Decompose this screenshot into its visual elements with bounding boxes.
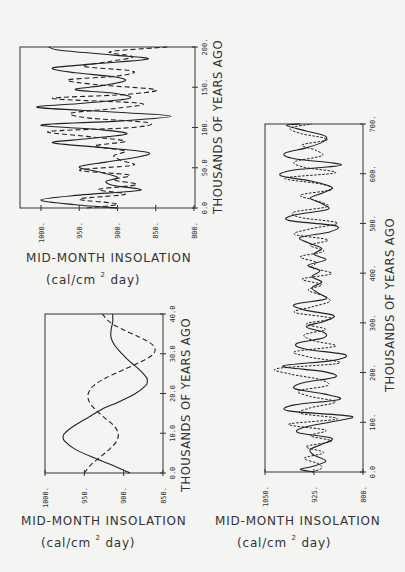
series-solid-line xyxy=(280,124,353,472)
time-tick-label: 500. xyxy=(369,215,377,232)
unit-text-end: day) xyxy=(297,536,332,550)
time-tick-label: 700. xyxy=(369,116,377,133)
time-tick-label: 0.0 xyxy=(369,466,377,479)
value-tick-label: 925. xyxy=(311,486,319,503)
time-tick-label: 300. xyxy=(369,314,377,331)
value-tick-label: 800. xyxy=(360,486,368,503)
time-tick-label: 200. xyxy=(369,364,377,381)
time-tick-label: 100. xyxy=(369,414,377,431)
value-tick-label: 1050. xyxy=(262,486,270,507)
plot-frame xyxy=(265,124,363,472)
chart-bottom-right: 1050.925.800. 0.0100.200.300.400.500.600… xyxy=(0,0,405,572)
unit-text: (cal/cm xyxy=(237,536,292,550)
unit-superscript: 2 xyxy=(292,534,297,542)
series-layer xyxy=(274,124,352,472)
time-tick-label: 400. xyxy=(369,265,377,282)
value-axis-unit: (cal/cm 2 day) xyxy=(237,536,331,550)
chart-bottom-right-svg: 1050.925.800. 0.0100.200.300.400.500.600… xyxy=(0,0,405,572)
value-axis: 1050.925.800. xyxy=(262,469,368,507)
time-axis-title: THOUSANDS OF YEARS AGO xyxy=(383,218,397,393)
time-tick-label: 600. xyxy=(369,165,377,182)
value-axis-title: MID-MONTH INSOLATION xyxy=(215,514,381,528)
